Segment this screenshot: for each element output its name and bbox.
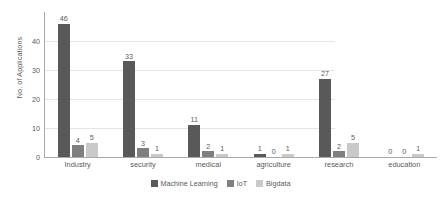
bar[interactable]	[412, 154, 424, 157]
x-axis-tick-label: education	[372, 160, 437, 169]
bar[interactable]	[282, 154, 294, 157]
bar-value-label: 5	[351, 134, 355, 141]
bar[interactable]	[151, 154, 163, 157]
bar-value-label: 33	[125, 53, 133, 60]
legend-label: Bigdata	[266, 179, 290, 188]
legend-swatch-icon	[151, 180, 158, 187]
y-axis-tick-label: 30	[32, 66, 40, 75]
bar-value-label: 1	[258, 145, 262, 152]
bar-slot: 46	[58, 12, 70, 157]
bar-value-label: 1	[416, 145, 420, 152]
bar-value-label: 4	[76, 137, 80, 144]
bar-slot: 5	[347, 12, 359, 157]
legend-swatch-icon	[256, 180, 263, 187]
x-axis-tick-label: agriculture	[241, 160, 306, 169]
bar-slot: 1	[254, 12, 266, 157]
bars: 001	[372, 12, 437, 157]
bar-value-label: 3	[141, 140, 145, 147]
legend-swatch-icon	[227, 180, 234, 187]
bar[interactable]	[86, 143, 98, 158]
legend: Machine LearningIoTBigdata	[0, 179, 441, 188]
y-axis-tick-label: 40	[32, 37, 40, 46]
bar[interactable]	[254, 154, 266, 157]
bar-slot: 2	[202, 12, 214, 157]
bar-slot: 2	[333, 12, 345, 157]
bar-value-label: 1	[286, 145, 290, 152]
bar[interactable]	[137, 148, 149, 157]
bar-value-label: 1	[155, 145, 159, 152]
bar-slot: 0	[384, 12, 396, 157]
bar-group: 2725	[306, 12, 371, 157]
legend-label: Machine Learning	[161, 179, 218, 188]
legend-item[interactable]: Machine Learning	[151, 179, 218, 188]
bars: 3331	[110, 12, 175, 157]
legend-item[interactable]: Bigdata	[256, 179, 290, 188]
bars: 2725	[306, 12, 371, 157]
bar[interactable]	[188, 125, 200, 157]
bar-value-label: 11	[191, 116, 198, 123]
bar-value-label: 0	[388, 148, 392, 155]
bar[interactable]	[347, 143, 359, 158]
x-axis-line	[44, 157, 437, 158]
x-axis-tick-label: security	[110, 160, 175, 169]
bar[interactable]	[319, 79, 331, 157]
bar-slot: 4	[72, 12, 84, 157]
bar-groups: 4645333111211012725001	[45, 12, 437, 157]
bar-value-label: 5	[90, 134, 94, 141]
x-axis-tick-label: Industry	[45, 160, 110, 169]
bars: 101	[241, 12, 306, 157]
bar[interactable]	[202, 151, 214, 157]
bar-value-label: 27	[321, 70, 329, 77]
bar-value-label: 0	[272, 148, 276, 155]
legend-item[interactable]: IoT	[227, 179, 247, 188]
bar-group: 101	[241, 12, 306, 157]
bar-value-label: 1	[220, 145, 224, 152]
bar[interactable]	[123, 61, 135, 157]
x-axis-tick-label: medical	[176, 160, 241, 169]
bar-slot: 1	[216, 12, 228, 157]
legend-label: IoT	[237, 179, 247, 188]
bar-slot: 27	[319, 12, 331, 157]
bar-slot: 11	[188, 12, 200, 157]
bar-slot: 1	[282, 12, 294, 157]
bar-slot: 5	[86, 12, 98, 157]
bar-chart: No. of Applications 010203040 4645333111…	[0, 0, 441, 201]
y-axis-title: No. of Applications	[15, 8, 24, 128]
bar-value-label: 2	[337, 143, 341, 150]
bar[interactable]	[72, 145, 84, 157]
plot-area: 010203040 4645333111211012725001	[44, 12, 437, 157]
bar-group: 001	[372, 12, 437, 157]
x-axis-labels: Industrysecuritymedicalagricultureresear…	[45, 160, 437, 169]
y-axis-tick-label: 0	[36, 153, 40, 162]
bar-slot: 33	[123, 12, 135, 157]
bar-group: 3331	[110, 12, 175, 157]
bar-value-label: 0	[402, 148, 406, 155]
y-axis-tick-label: 10	[32, 124, 40, 133]
bar[interactable]	[216, 154, 228, 157]
bar-slot: 1	[412, 12, 424, 157]
bar-value-label: 2	[206, 143, 210, 150]
bar-value-label: 46	[60, 15, 68, 22]
bar-slot: 3	[137, 12, 149, 157]
x-axis-tick-label: research	[306, 160, 371, 169]
bars: 4645	[45, 12, 110, 157]
bar-slot: 0	[268, 12, 280, 157]
bar-group: 1121	[176, 12, 241, 157]
bar[interactable]	[333, 151, 345, 157]
bar-slot: 1	[151, 12, 163, 157]
y-axis-tick-label: 20	[32, 95, 40, 104]
bars: 1121	[176, 12, 241, 157]
bar-group: 4645	[45, 12, 110, 157]
bar-slot: 0	[398, 12, 410, 157]
bar[interactable]	[58, 24, 70, 157]
